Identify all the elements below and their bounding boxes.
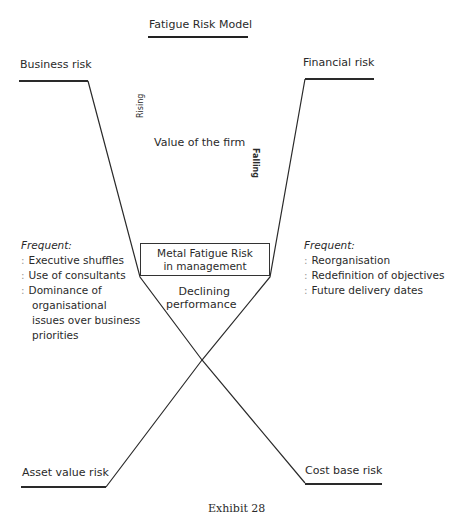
label-financial-risk: Financial risk <box>303 56 374 69</box>
label-cost-base-risk: Cost base risk <box>305 464 382 477</box>
declining-performance-label: Declining performance <box>172 285 236 311</box>
label-value-of-firm: Value of the firm <box>154 136 245 149</box>
left-list-item: :Executive shuffles <box>21 253 140 268</box>
right-frequent-list: Frequent: :Reorganisation :Redefinition … <box>304 238 444 298</box>
left-list-item: :Dominance of <box>21 283 140 298</box>
right-list-heading: Frequent: <box>304 238 444 253</box>
left-list-item-cont: issues over business <box>21 313 140 328</box>
left-list-item-cont: priorities <box>21 328 140 343</box>
declining-line-1: Declining <box>172 285 236 298</box>
label-asset-value-risk: Asset value risk <box>22 466 109 479</box>
left-list-heading: Frequent: <box>21 238 140 253</box>
label-rising: Rising <box>136 94 145 118</box>
metal-fatigue-box: Metal Fatigue Risk in management <box>140 243 270 276</box>
left-frequent-list: Frequent: :Executive shuffles :Use of co… <box>21 238 140 343</box>
label-falling: Falling <box>251 148 260 178</box>
right-list-item: :Future delivery dates <box>304 283 444 298</box>
declining-line-2: performance <box>166 298 236 311</box>
left-list-item-cont: organisational <box>21 298 140 313</box>
left-list-item: :Use of consultants <box>21 268 140 283</box>
label-business-risk: Business risk <box>20 58 92 71</box>
box-line-2: in management <box>141 260 269 273</box>
exhibit-caption: Exhibit 28 <box>208 502 265 515</box>
right-list-item: :Redefinition of objectives <box>304 268 444 283</box>
box-line-1: Metal Fatigue Risk <box>141 247 269 260</box>
right-list-item: :Reorganisation <box>304 253 444 268</box>
